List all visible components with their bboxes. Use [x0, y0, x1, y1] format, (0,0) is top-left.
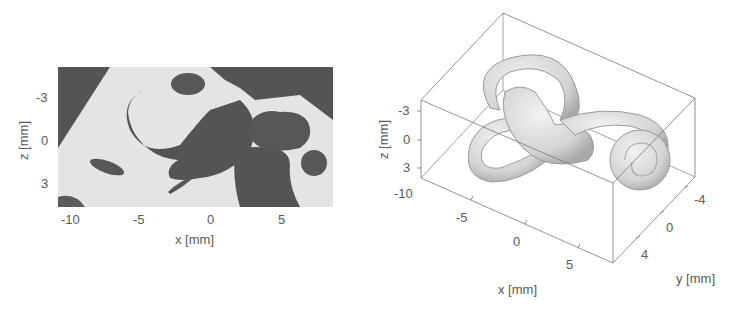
z3d-tick-0: 0	[403, 133, 410, 146]
y3d-tick-neg4: -4	[694, 193, 706, 206]
render-3d-image	[0, 0, 746, 310]
z3d-axis-label: z [mm]	[377, 120, 390, 159]
y3d-tick-4: 4	[641, 248, 648, 261]
render-3d-panel: -3 0 3 z [mm] -10 -5 0 5 x [mm] -4 0 4 y…	[0, 0, 746, 310]
x3d-axis-label: x [mm]	[498, 283, 537, 296]
y3d-axis-label: y [mm]	[676, 272, 715, 285]
inner-ear-surface	[468, 55, 670, 190]
z3d-tick-neg3: -3	[398, 104, 410, 117]
x3d-tick-neg10: -10	[394, 187, 413, 200]
x3d-tick-5: 5	[566, 258, 573, 271]
y3d-tick-0: 0	[666, 221, 673, 234]
z3d-tick-3: 3	[403, 161, 410, 174]
x3d-tick-neg5: -5	[456, 211, 468, 224]
x3d-tick-0: 0	[513, 235, 520, 248]
